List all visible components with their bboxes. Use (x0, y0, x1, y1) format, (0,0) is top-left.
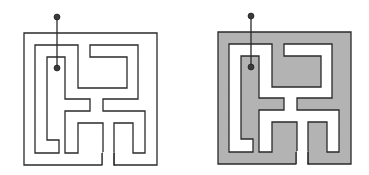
maze-shaded (218, 13, 351, 165)
maze-plain (24, 14, 157, 166)
maze-exit-gap (297, 151, 308, 165)
start-dot-outside-icon (54, 14, 60, 20)
start-dot-inside-icon (248, 64, 254, 70)
maze-exit-gap (103, 152, 114, 166)
start-dot-inside-icon (54, 65, 60, 71)
maze-figure (0, 0, 369, 175)
start-dot-outside-icon (248, 13, 254, 19)
maze-canvas (0, 0, 369, 175)
